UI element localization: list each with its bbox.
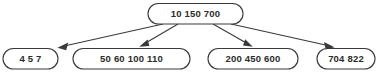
edge-root-to-leaf-2 — [139, 24, 178, 47]
arrow-head-icon — [58, 43, 69, 51]
arrow-head-icon — [139, 39, 149, 46]
leaf-node-4[interactable]: 704 822 — [317, 49, 375, 70]
leaf-node-3-keys: 200 450 600 — [225, 53, 280, 64]
leaf-node-3[interactable]: 200 450 600 — [208, 49, 298, 70]
arrow-head-icon — [243, 39, 253, 47]
leaf-node-1-keys: 4 5 7 — [19, 53, 41, 64]
leaf-node-2-keys: 50 60 100 110 — [100, 53, 163, 64]
leaf-node-4-keys: 704 822 — [328, 53, 364, 64]
btree-diagram: 10 150 700 4 5 7 50 60 100 110 200 450 6… — [0, 0, 380, 77]
root-node[interactable]: 10 150 700 — [148, 4, 243, 25]
tree-canvas: 10 150 700 4 5 7 50 60 100 110 200 450 6… — [0, 0, 380, 77]
leaf-node-2[interactable]: 50 60 100 110 — [73, 49, 190, 70]
edge-root-to-leaf-1 — [58, 24, 164, 50]
leaf-node-1[interactable]: 4 5 7 — [3, 49, 58, 70]
root-node-keys: 10 150 700 — [171, 8, 221, 19]
